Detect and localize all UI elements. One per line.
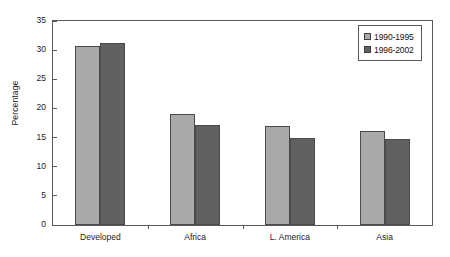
bar <box>360 131 385 225</box>
y-tick-mark <box>53 108 57 109</box>
x-tick-mark <box>337 225 338 229</box>
bar <box>75 46 100 225</box>
legend-label: 1990-1995 <box>374 32 414 42</box>
y-tick-mark <box>53 79 57 80</box>
bar <box>170 114 195 225</box>
y-axis-title: Percentage <box>10 58 20 148</box>
legend-label: 1996-2002 <box>374 45 414 55</box>
x-axis-label: Developed <box>80 232 121 242</box>
bar <box>195 125 220 225</box>
x-axis-label: Africa <box>184 232 206 242</box>
x-axis-label: Asia <box>376 232 393 242</box>
y-tick-label: 0 <box>41 219 46 229</box>
bar <box>385 139 410 225</box>
y-tick-mark <box>53 166 57 167</box>
x-tick-mark <box>243 225 244 229</box>
chart-legend: 1990-19951996-2002 <box>358 25 422 61</box>
y-tick-label: 10 <box>37 161 46 171</box>
y-tick-label: 25 <box>37 73 46 83</box>
y-tick-mark <box>53 21 57 22</box>
y-tick-label: 5 <box>41 190 46 200</box>
bar <box>290 138 315 225</box>
y-tick-mark <box>53 195 57 196</box>
y-tick-label: 30 <box>37 44 46 54</box>
y-tick-label: 35 <box>37 15 46 25</box>
legend-swatch-light <box>364 33 371 40</box>
y-tick-label: 20 <box>37 102 46 112</box>
y-tick-mark <box>53 50 57 51</box>
x-axis-label: L. America <box>270 232 310 242</box>
y-tick-mark <box>53 137 57 138</box>
x-tick-mark <box>148 225 149 229</box>
bar <box>265 126 290 225</box>
y-tick-label: 15 <box>37 132 46 142</box>
bar-chart: Percentage 05101520253035 DevelopedAfric… <box>0 0 450 257</box>
bar <box>100 43 125 225</box>
legend-swatch-dark <box>364 46 371 53</box>
legend-item: 1996-2002 <box>364 43 414 56</box>
y-tick-mark <box>53 225 57 226</box>
legend-item: 1990-1995 <box>364 30 414 43</box>
